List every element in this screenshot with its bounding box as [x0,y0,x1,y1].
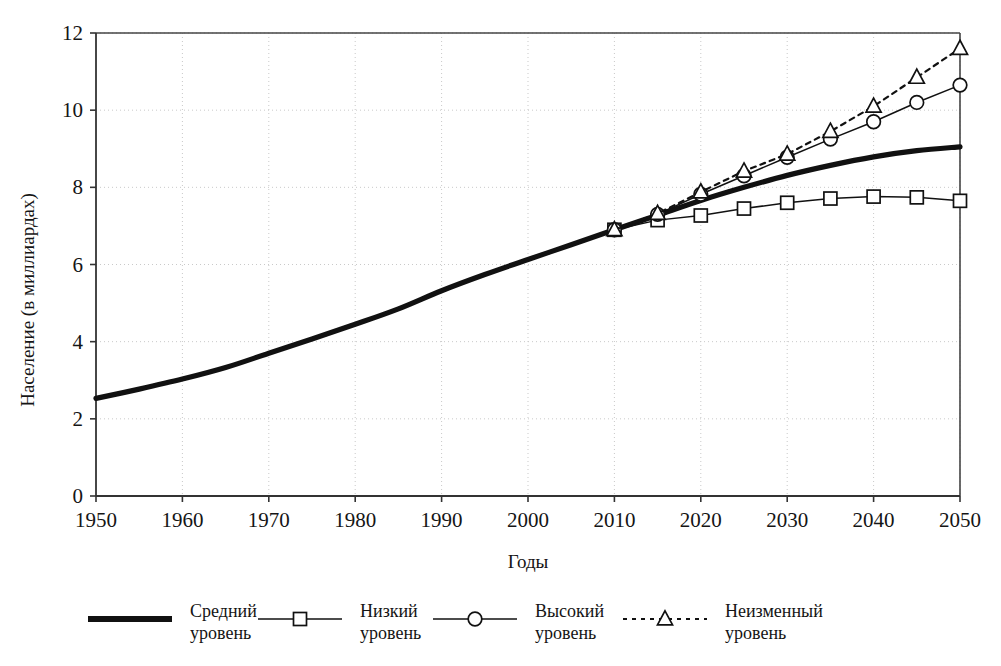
legend-label: уровень [190,623,251,643]
x-tick-label: 2040 [853,508,895,532]
x-tick-label: 2010 [593,508,635,532]
legend-label: Неизменный [725,601,823,621]
x-tick-label: 1960 [161,508,203,532]
x-tick-label: 2030 [766,508,808,532]
x-tick-label: 1970 [248,508,290,532]
x-tick-label: 2050 [939,508,981,532]
data-point-marker-square [294,613,307,626]
y-tick-label: 10 [62,98,83,122]
y-tick-label: 12 [62,21,83,45]
legend-label: уровень [360,623,421,643]
data-point-marker-circle [867,115,881,129]
data-point-marker-circle [910,96,924,110]
y-tick-label: 6 [73,253,84,277]
y-tick-label: 2 [73,407,84,431]
x-axis-title: Годы [508,551,549,572]
legend-label: уровень [535,623,596,643]
legend-label: уровень [725,623,786,643]
chart-background [0,0,1001,666]
data-point-marker-square [824,192,837,205]
y-axis-title: Население (в миллиардах) [17,193,39,407]
data-point-marker-square [781,196,794,209]
data-point-marker-square [738,202,751,215]
x-tick-label: 1990 [421,508,463,532]
data-point-marker-square [867,190,880,203]
data-point-marker-square [910,191,923,204]
y-tick-label: 4 [73,330,84,354]
legend-label: Низкий [360,601,418,621]
population-projection-chart: 024681012 195019601970198019902000201020… [0,0,1001,666]
x-tick-label: 2020 [680,508,722,532]
data-point-marker-circle [468,612,482,626]
x-tick-label: 1980 [334,508,376,532]
data-point-marker-circle [953,78,967,92]
data-point-marker-square [694,209,707,222]
y-tick-label: 8 [73,175,84,199]
legend-label: Высокий [535,601,604,621]
x-tick-label: 1950 [75,508,117,532]
y-tick-label: 0 [73,484,84,508]
data-point-marker-square [954,194,967,207]
legend-label: Средний [190,601,257,621]
chart-canvas: 024681012 195019601970198019902000201020… [0,0,1001,666]
x-tick-label: 2000 [507,508,549,532]
